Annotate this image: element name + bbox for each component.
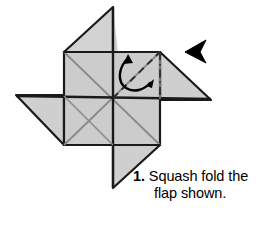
origami-diagram: 1. Squash fold the flap shown.	[0, 0, 261, 227]
step-caption: 1. Squash fold the flap shown.	[133, 168, 259, 202]
caption-line-2: flap shown.	[133, 185, 259, 202]
wing-top-left	[64, 7, 113, 52]
flap-pointer-arrowhead	[185, 40, 206, 63]
caption-line-1: 1. Squash fold the	[133, 168, 259, 185]
wing-left	[16, 95, 64, 145]
caption-text-1: Squash fold the	[149, 168, 248, 184]
step-number: 1.	[133, 168, 145, 184]
